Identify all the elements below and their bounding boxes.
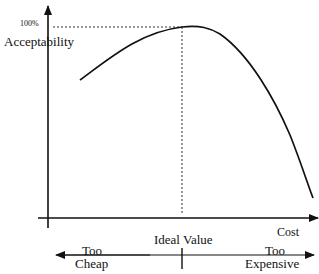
x-axis-label: Cost: [277, 226, 299, 238]
max-value-label: 100%: [20, 20, 39, 28]
too-cheap-label-2: Cheap: [75, 257, 108, 270]
too-expensive-label-2: Expensive: [245, 257, 299, 270]
ideal-value-label: Ideal Value: [154, 233, 213, 246]
y-axis-label: Acceptability: [4, 35, 74, 48]
acceptability-curve: [80, 26, 313, 198]
